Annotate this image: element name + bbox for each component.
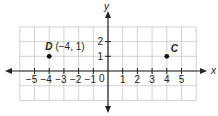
x-tick-label: 3 bbox=[149, 74, 155, 85]
origin-label: 0 bbox=[99, 73, 105, 84]
point-d bbox=[47, 54, 52, 59]
x-axis-label: x bbox=[210, 65, 217, 76]
y-axis-down-arrow-icon bbox=[105, 106, 111, 113]
y-axis-label: y bbox=[103, 1, 110, 12]
x-axis-right-arrow-icon bbox=[200, 68, 207, 74]
x-tick-label: −2 bbox=[70, 74, 82, 85]
point-c bbox=[164, 54, 169, 59]
x-tick-label: 1 bbox=[120, 74, 126, 85]
point-label-c: C bbox=[171, 43, 179, 54]
x-axis-left-arrow-icon bbox=[5, 68, 12, 74]
y-tick-label: 2 bbox=[97, 36, 103, 47]
x-tick-label: −5 bbox=[26, 74, 38, 85]
x-tick-label: 5 bbox=[179, 74, 185, 85]
x-tick-label: −1 bbox=[85, 74, 97, 85]
axes bbox=[5, 11, 207, 113]
y-tick-label: 1 bbox=[97, 51, 103, 62]
point-label-d: D(−4, 1) bbox=[45, 41, 84, 52]
x-tick-label: 4 bbox=[164, 74, 170, 85]
x-tick-label: −4 bbox=[40, 74, 52, 85]
y-axis-up-arrow-icon bbox=[105, 11, 111, 18]
x-tick-label: 2 bbox=[135, 74, 141, 85]
x-tick-label: −3 bbox=[55, 74, 67, 85]
coordinate-plane: −5−4−3−2−11234512 D(−4, 1)C x y 0 bbox=[0, 0, 218, 116]
